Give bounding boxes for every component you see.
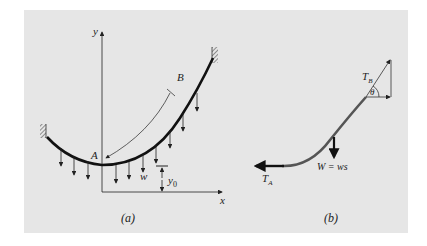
load-label: w: [140, 170, 148, 182]
cable-curve: [47, 58, 213, 165]
weight-label: W = ws: [317, 161, 348, 172]
panel-b-caption: (b): [324, 211, 338, 225]
x-axis-label: x: [219, 194, 225, 206]
panel-a-caption: (a): [121, 211, 135, 225]
tension-b-label: TB: [362, 70, 373, 85]
distributed-load-arrows: [61, 93, 197, 183]
cable-diagram: y x A B w y0: [0, 0, 427, 246]
angle-label: θ: [370, 87, 375, 97]
cable-segment: [282, 97, 366, 166]
point-a-label: A: [90, 149, 98, 161]
left-support-icon: [40, 124, 46, 138]
tension-a-label: TA: [262, 172, 273, 187]
y-axis-label: y: [92, 25, 98, 37]
point-b-label: B: [177, 71, 184, 83]
arc-length-arrow: [106, 93, 170, 158]
y0-label: y0: [167, 174, 177, 189]
panel-b: TA W = ws θ TB (b): [256, 60, 391, 225]
panel-a: y x A B w y0: [40, 25, 225, 225]
